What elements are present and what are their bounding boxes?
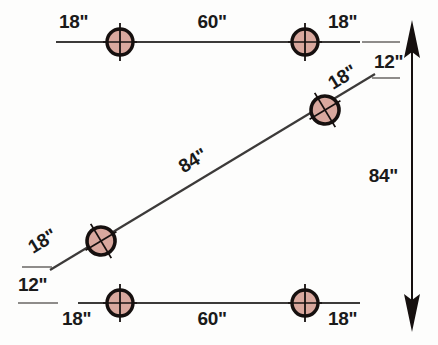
hole-bottom-right [288,284,322,322]
label-top-left-edge: 18" [59,11,88,32]
technical-drawing-canvas: 18" 60" 18" 12" 18" 84" 18" 12" 18" 60" … [0,0,438,345]
label-bottom-span: 60" [197,308,226,329]
label-lower-left-offset: 12" [18,274,47,295]
label-diagonal-lower-edge: 18" [24,224,60,257]
hole-bottom-left [103,284,137,322]
hole-diagonal-lower [75,215,126,268]
dimension-diagram: 18" 60" 18" 12" 18" 84" 18" 12" 18" 60" … [0,0,438,345]
label-bottom-right-edge: 18" [328,308,357,329]
label-top-span: 60" [197,11,226,32]
hole-diagonal-upper [299,84,350,137]
label-upper-right-offset: 12" [374,51,403,72]
hole-top-right [288,23,322,61]
label-diagonal-span: 84" [175,144,211,177]
label-overall-height: 84" [369,165,398,186]
centerlines [50,42,375,303]
overall-height-dimension [404,20,420,332]
label-diagonal-upper-edge: 18" [324,60,360,93]
hole-top-left [103,23,137,61]
label-bottom-left-edge: 18" [62,308,91,329]
label-top-right-edge: 18" [328,11,357,32]
